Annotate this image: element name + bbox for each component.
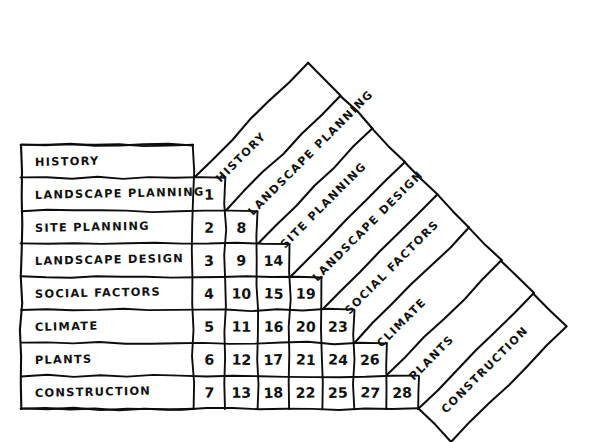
cell-number-21: 21 — [296, 351, 317, 368]
cell-number-12: 12 — [231, 351, 251, 368]
grid-vline-7 — [418, 376, 419, 409]
cell-number-17: 17 — [263, 351, 284, 368]
interaction-matrix-diagram: HISTORYLANDSCAPE PLANNINGSITE PLANNINGLA… — [0, 0, 594, 442]
cell-number-27: 27 — [360, 384, 380, 401]
cell-number-1: 1 — [204, 187, 214, 203]
row-label-4: LANDSCAPE DESIGN — [35, 251, 184, 268]
cell-number-5: 5 — [204, 319, 214, 335]
matrix-canvas: HISTORYLANDSCAPE PLANNINGSITE PLANNINGLA… — [0, 0, 594, 442]
row-label-7: PLANTS — [35, 352, 93, 367]
cell-number-25: 25 — [328, 384, 348, 400]
cell-number-22: 22 — [295, 384, 315, 401]
cell-number-18: 18 — [263, 384, 283, 401]
cell-number-26: 26 — [360, 351, 381, 368]
cell-number-28: 28 — [392, 384, 412, 401]
cell-number-10: 10 — [231, 286, 251, 302]
grid-vline-6 — [386, 343, 387, 409]
cell-number-13: 13 — [231, 385, 251, 401]
row-label-5: SOCIAL FACTORS — [35, 284, 161, 300]
row-label-3: SITE PLANNING — [35, 219, 150, 235]
row-label-6: CLIMATE — [35, 319, 99, 334]
cell-number-16: 16 — [264, 319, 284, 335]
cell-number-4: 4 — [204, 285, 215, 301]
row-label-8: CONSTRUCTION — [35, 384, 151, 400]
row-label-1: HISTORY — [35, 154, 100, 169]
cell-number-19: 19 — [296, 286, 316, 302]
cell-number-6: 6 — [204, 352, 214, 368]
cell-number-8: 8 — [236, 220, 247, 236]
cell-number-9: 9 — [236, 253, 246, 269]
cell-number-7: 7 — [204, 385, 214, 401]
cell-number-24: 24 — [328, 351, 349, 368]
cell-number-2: 2 — [204, 220, 214, 236]
cell-number-20: 20 — [296, 318, 316, 334]
cell-number-3: 3 — [204, 252, 215, 268]
cell-number-11: 11 — [231, 319, 251, 335]
cell-number-14: 14 — [263, 252, 283, 269]
cell-number-23: 23 — [328, 319, 348, 335]
cell-number-15: 15 — [264, 285, 284, 302]
